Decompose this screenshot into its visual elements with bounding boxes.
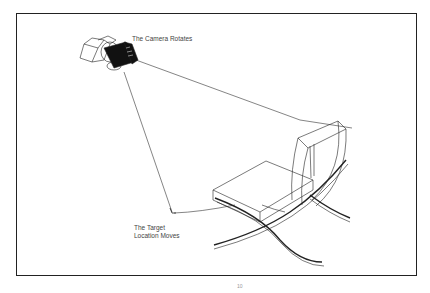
target-label-line2: Location Moves <box>134 232 180 240</box>
sightline-to-chair <box>136 60 352 128</box>
camera-icon <box>80 36 138 70</box>
camera-rotates-label: The Camera Rotates <box>132 35 192 43</box>
footer-mark: 10 <box>237 283 243 289</box>
chair-wireframe <box>213 121 350 266</box>
sightline-to-target <box>124 72 235 213</box>
target-location-label: The Target Location Moves <box>134 224 180 240</box>
diagram-artwork <box>0 0 430 293</box>
camera-label-text: The Camera Rotates <box>132 35 192 43</box>
target-label-line1: The Target <box>134 224 180 232</box>
